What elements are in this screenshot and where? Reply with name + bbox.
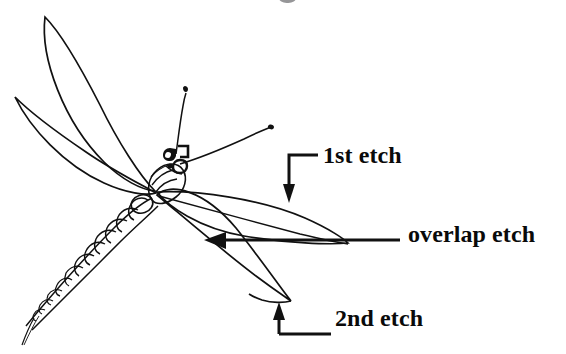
second-etch-leader [273, 302, 331, 334]
middle-left-wing [15, 97, 156, 194]
abdomen-tail [22, 318, 34, 345]
antenna-upper-tip [183, 86, 188, 92]
second-etch-arrowhead [273, 302, 285, 320]
antenna-right [180, 127, 271, 164]
lower-right-wing-tip-hook [249, 294, 291, 302]
figure-container: 1st etch overlap etch 2nd etch [0, 0, 566, 354]
first-etch-leader [283, 155, 318, 203]
first-etch-arrowhead [283, 184, 295, 203]
first-etch-leader-line [289, 155, 318, 188]
label-1st-etch: 1st etch [323, 143, 402, 167]
eye-upper-right [178, 146, 188, 157]
label-2nd-etch: 2nd etch [335, 306, 423, 330]
upper-right-wing [157, 192, 348, 244]
abdomen-group [22, 198, 158, 345]
overlap-etch-arrowhead [204, 232, 226, 249]
antennae-group [176, 86, 274, 164]
dragonfly-drawing [0, 0, 566, 354]
thorax-head-group [129, 146, 188, 216]
label-overlap-etch: overlap etch [408, 222, 535, 246]
upper-left-wing [44, 17, 155, 191]
abdomen-outline-upper [26, 198, 152, 326]
abdomen-outline-lower [32, 206, 158, 330]
